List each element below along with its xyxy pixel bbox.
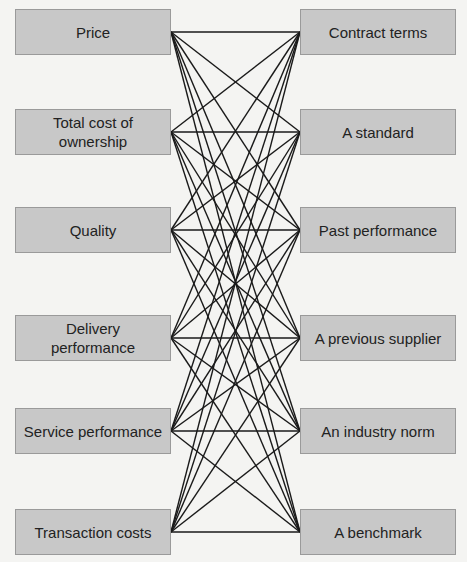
node-label: Delivery performance [22,319,164,357]
node-label: A previous supplier [315,329,442,348]
left-node-price: Price [15,9,171,55]
left-node-total-cost-of-ownership: Total cost of ownership [15,109,171,155]
left-node-quality: Quality [15,207,171,253]
left-node-service-performance: Service performance [15,408,171,454]
node-label: Price [76,23,110,42]
right-node-a-benchmark: A benchmark [300,509,456,555]
node-label: Total cost of ownership [22,113,164,151]
right-node-past-performance: Past performance [300,207,456,253]
node-label: Transaction costs [35,523,152,542]
node-label: Past performance [319,221,437,240]
left-node-delivery-performance: Delivery performance [15,315,171,361]
node-label: Contract terms [329,23,427,42]
diagram-canvas: Price Total cost of ownership Quality De… [0,0,467,562]
node-label: An industry norm [321,422,434,441]
node-label: A standard [342,123,414,142]
node-label: Service performance [24,422,162,441]
right-node-a-previous-supplier: A previous supplier [300,315,456,361]
node-label: Quality [70,221,117,240]
right-node-contract-terms: Contract terms [300,9,456,55]
right-node-a-standard: A standard [300,109,456,155]
connection-lines [0,0,467,562]
node-label: A benchmark [334,523,422,542]
left-node-transaction-costs: Transaction costs [15,509,171,555]
right-node-an-industry-norm: An industry norm [300,408,456,454]
